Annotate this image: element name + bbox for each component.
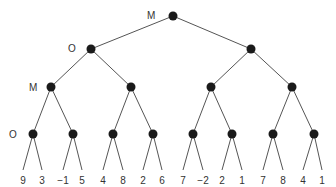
leaf-value: −2 (197, 175, 209, 186)
leaf-value: 8 (120, 175, 126, 186)
tree-node (169, 12, 178, 21)
tree-node (87, 45, 96, 54)
leaf-value: −1 (57, 175, 69, 186)
leaf-value: 6 (159, 175, 165, 186)
tree-node (149, 130, 158, 139)
tree-edge (143, 134, 153, 170)
tree-node (269, 130, 278, 139)
leaf-value: 8 (280, 175, 286, 186)
tree-node (47, 83, 56, 92)
tree-node (207, 83, 216, 92)
leaf-value: 9 (20, 175, 26, 186)
tree-edges (23, 16, 322, 170)
tree-node (69, 130, 78, 139)
tree-edge (113, 134, 123, 170)
level-labels: M O M O (9, 10, 155, 140)
tree-node (29, 130, 38, 139)
level-label-root: M (147, 10, 155, 21)
tree-node (228, 130, 237, 139)
tree-edge (222, 134, 232, 170)
tree-edge (51, 49, 91, 87)
tree-edge (232, 134, 242, 170)
level-label-1: O (68, 43, 76, 54)
tree-node (288, 83, 297, 92)
leaf-value: 5 (79, 175, 85, 186)
tree-edge (251, 49, 292, 87)
tree-edge (211, 87, 232, 134)
tree-edge (193, 87, 211, 134)
tree-edge (303, 134, 314, 170)
leaf-value: 7 (260, 175, 266, 186)
tree-edge (273, 87, 292, 134)
tree-node (310, 130, 319, 139)
leaf-value: 1 (319, 175, 325, 186)
leaf-values: 9 3 −1 5 4 8 2 6 7 −2 2 1 7 8 4 1 (20, 175, 325, 186)
tree-edge (91, 16, 173, 49)
tree-edge (51, 87, 73, 134)
tree-node (247, 45, 256, 54)
leaf-value: 3 (39, 175, 45, 186)
tree-edge (33, 87, 51, 134)
game-tree-diagram: M O M O 9 3 −1 5 4 8 2 6 7 −2 2 1 7 8 4 … (0, 0, 336, 187)
tree-edge (273, 134, 283, 170)
tree-edge (193, 134, 203, 170)
leaf-value: 4 (100, 175, 106, 186)
leaf-value: 2 (219, 175, 225, 186)
tree-edge (23, 134, 33, 170)
tree-node (189, 130, 198, 139)
tree-edge (263, 134, 273, 170)
tree-edge (131, 87, 153, 134)
leaf-value: 7 (180, 175, 186, 186)
level-label-2: M (29, 82, 37, 93)
tree-edge (314, 134, 322, 170)
leaf-value: 2 (140, 175, 146, 186)
level-label-3: O (9, 129, 17, 140)
tree-edge (33, 134, 42, 170)
tree-nodes (29, 12, 319, 139)
leaf-value: 1 (239, 175, 245, 186)
tree-edge (292, 87, 314, 134)
tree-edge (173, 16, 251, 49)
tree-edge (153, 134, 162, 170)
tree-edge (91, 49, 131, 87)
tree-edge (103, 134, 113, 170)
tree-edge (211, 49, 251, 87)
tree-node (127, 83, 136, 92)
tree-edge (73, 134, 82, 170)
tree-edge (63, 134, 73, 170)
leaf-value: 4 (300, 175, 306, 186)
tree-node (109, 130, 118, 139)
tree-edge (183, 134, 193, 170)
tree-edge (113, 87, 131, 134)
